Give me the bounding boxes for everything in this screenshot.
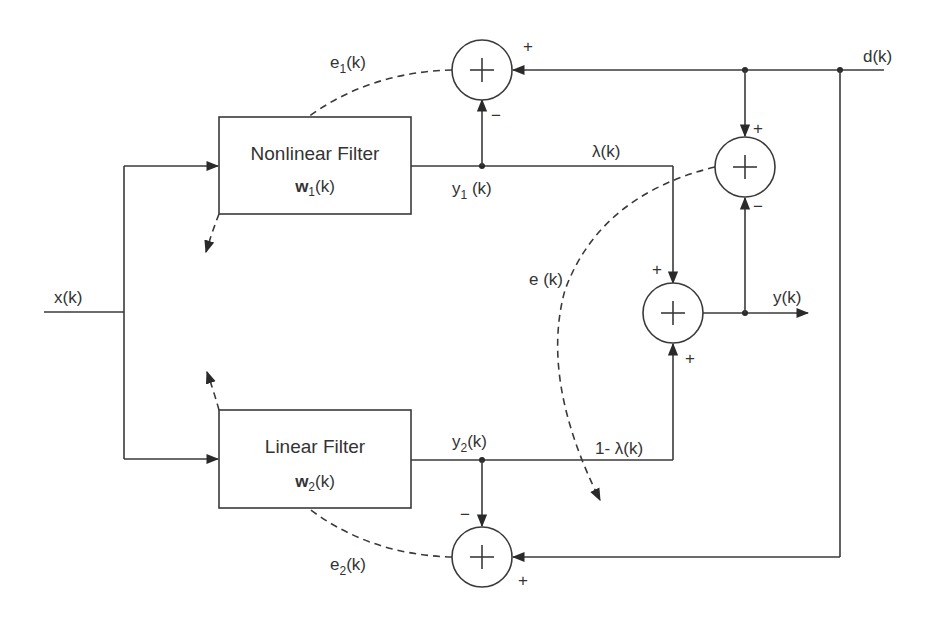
input-label: x(k) [54,288,82,307]
nonlinear-filter-block: Nonlinear Filter w1(k) [219,117,411,214]
linear-filter-title: Linear Filter [265,436,366,457]
summer-e2: − + [452,505,528,590]
sign-minus: − [753,197,763,216]
nonlinear-filter-weight: w1(k) [294,177,335,199]
sign-plus: + [652,260,662,279]
sign-plus: + [685,349,695,368]
y2-path: y2(k) 1- λ(k) [411,344,673,526]
sign-plus: + [753,119,763,138]
sign-minus: − [460,505,470,524]
sign-minus: − [491,106,501,125]
e-label: e (k) [529,270,563,289]
one-minus-lambda-label: 1- λ(k) [595,439,643,458]
nonlinear-filter-title: Nonlinear Filter [251,143,380,164]
desired-label: d(k) [863,47,892,66]
desired-signal-path: d(k) [513,47,892,557]
y1-path: y1 (k) λ(k) [411,100,673,283]
output-label: y(k) [773,288,801,307]
y2-label: y2(k) [452,432,487,455]
lambda-label: λ(k) [592,142,620,161]
linear-filter-block: Linear Filter w2(k) [219,410,411,508]
linear-filter-weight: w2(k) [294,472,335,494]
y1-label: y1 (k) [452,179,492,202]
input-signal: x(k) [44,166,218,459]
sign-plus: + [518,571,528,590]
sign-plus: + [523,37,533,56]
e2-label: e2(k) [330,555,366,578]
adaptive-filter-diagram: x(k) Nonlinear Filter w1(k) Linear Filte… [0,0,936,617]
e1-label: e1(k) [330,53,366,76]
summer-e1: + − [452,37,533,125]
